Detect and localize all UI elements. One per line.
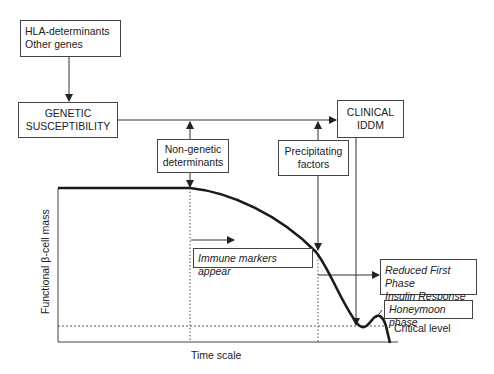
critical-level-label: Critical level xyxy=(394,322,451,334)
hla-line1: HLA-determinants xyxy=(25,25,116,38)
hla-box: HLA-determinants Other genes xyxy=(20,20,121,57)
reduced-insulin-box: Reduced First Phase Insulin Response xyxy=(380,259,477,295)
non-genetic-box: Non-genetic determinants xyxy=(157,139,229,173)
clinical-line1: CLINICAL xyxy=(338,106,403,119)
clinical-line2: IDDM xyxy=(338,119,403,132)
reduced-line1: Reduced First Phase xyxy=(385,264,472,290)
hla-line2: Other genes xyxy=(25,38,116,51)
precipitating-box: Precipitating factors xyxy=(278,140,349,176)
genetic-line2: SUSCEPTIBILITY xyxy=(19,120,117,133)
x-axis-label: Time scale xyxy=(191,349,241,361)
clinical-iddm-box: CLINICAL IDDM xyxy=(337,100,404,138)
honeymoon-box: Honeymoon phase xyxy=(384,300,473,319)
precipitating-line2: factors xyxy=(279,158,348,171)
non-genetic-line2: determinants xyxy=(158,156,228,169)
non-genetic-line1: Non-genetic xyxy=(158,143,228,156)
precipitating-line1: Precipitating xyxy=(279,145,348,158)
y-axis-label: Functional β-cell mass xyxy=(39,214,51,314)
immune-markers-box: Immune markers appear xyxy=(193,248,313,268)
genetic-susceptibility-box: GENETIC SUSCEPTIBILITY xyxy=(18,102,118,138)
genetic-line1: GENETIC xyxy=(19,107,117,120)
